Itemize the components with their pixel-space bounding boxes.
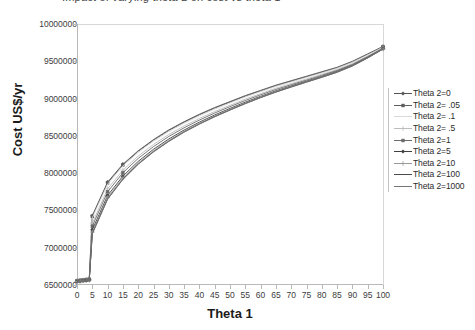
- legend-item[interactable]: Theta 2= .05: [393, 100, 475, 112]
- legend-label: Theta 2=100: [413, 169, 460, 180]
- legend-item[interactable]: Theta 2=5: [393, 146, 475, 158]
- legend-key-icon: [393, 88, 413, 99]
- legend-key-icon: [393, 135, 413, 146]
- legend-item[interactable]: Theta 2= .5: [393, 123, 475, 135]
- legend-label: Theta 2= .1: [413, 111, 455, 122]
- legend-key-icon: [393, 158, 413, 169]
- legend-key-icon: [393, 181, 413, 192]
- legend-label: Theta 2=1: [413, 135, 451, 146]
- legend-key-icon: [393, 169, 413, 180]
- series-line: [75, 45, 384, 282]
- data-point-marker: [121, 171, 124, 174]
- legend-key-icon: [393, 146, 413, 157]
- legend-item[interactable]: Theta 2= .1: [393, 111, 475, 123]
- legend-key-icon: [393, 111, 413, 122]
- chart-container: Impact of varying theta 2 on cost vs the…: [0, 0, 475, 330]
- legend-key-icon: [393, 123, 413, 134]
- legend-label: Theta 2=1000: [413, 181, 465, 192]
- legend-item[interactable]: Theta 2=100: [393, 169, 475, 181]
- legend-item[interactable]: Theta 2=0: [393, 88, 475, 100]
- legend-label: Theta 2=10: [413, 158, 455, 169]
- legend-item[interactable]: Theta 2=1000: [393, 181, 475, 193]
- legend-label: Theta 2=5: [413, 146, 451, 157]
- chart-legend: Theta 2=0Theta 2= .05Theta 2= .1Theta 2=…: [388, 88, 475, 192]
- legend-label: Theta 2= .5: [413, 123, 455, 134]
- legend-item[interactable]: Theta 2=10: [393, 158, 475, 170]
- legend-label: Theta 2=0: [413, 88, 451, 99]
- legend-key-icon: [393, 100, 413, 111]
- legend-label: Theta 2= .05: [413, 100, 460, 111]
- legend-item[interactable]: Theta 2=1: [393, 134, 475, 146]
- data-point-marker: [106, 190, 109, 193]
